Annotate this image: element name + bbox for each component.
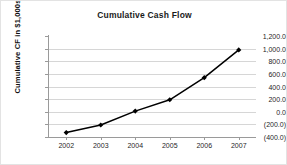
y-tick-mark bbox=[45, 87, 48, 88]
y-tick-mark bbox=[45, 112, 48, 113]
y-tick-mark bbox=[45, 49, 48, 50]
chart-container: Cumulative Cash Flow Cumulative CF in $1… bbox=[0, 0, 287, 165]
chart-title: Cumulative Cash Flow bbox=[1, 10, 287, 20]
y-tick-mark bbox=[45, 99, 48, 100]
x-tick-mark bbox=[170, 137, 171, 140]
y-tick-mark bbox=[45, 137, 48, 138]
x-tick-mark bbox=[101, 137, 102, 140]
series-markers bbox=[64, 47, 242, 135]
y-tick-mark bbox=[45, 36, 48, 37]
y-tick-mark bbox=[45, 124, 48, 125]
data-point-marker bbox=[133, 109, 138, 114]
plot-area bbox=[49, 36, 256, 137]
x-axis-line bbox=[48, 137, 256, 138]
data-point-marker bbox=[98, 122, 103, 127]
y-tick-mark bbox=[45, 61, 48, 62]
data-series-cumulative-cash-flow bbox=[49, 36, 256, 137]
x-tick-mark bbox=[135, 137, 136, 140]
x-tick-mark bbox=[239, 137, 240, 140]
x-tick-mark bbox=[204, 137, 205, 140]
y-axis-title: Cumulative CF in $1,000s bbox=[13, 0, 22, 101]
y-tick-mark bbox=[45, 74, 48, 75]
series-line bbox=[66, 50, 239, 133]
x-tick-mark bbox=[66, 137, 67, 140]
x-tick-label: 2007 bbox=[219, 142, 259, 149]
data-point-marker bbox=[64, 130, 69, 135]
